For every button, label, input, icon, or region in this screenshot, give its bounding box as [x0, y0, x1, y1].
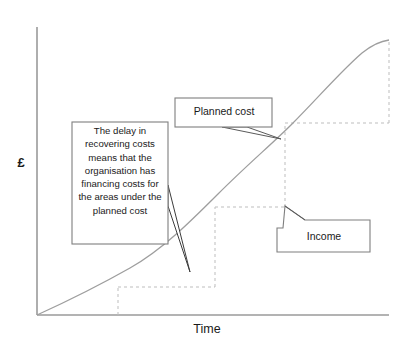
chart-svg — [0, 0, 406, 347]
planned-cost-label: Planned cost — [176, 104, 272, 118]
planned-cost-tail — [222, 127, 281, 139]
y-axis-label: £ — [10, 155, 32, 170]
delay-note-label: The delay in recovering costs means that… — [73, 124, 167, 217]
diagram-canvas: £ Time The delay in recovering costs mea… — [0, 0, 406, 347]
delay-note-tail — [168, 185, 190, 272]
income-label: Income — [278, 229, 370, 243]
x-axis-label: Time — [157, 322, 257, 336]
